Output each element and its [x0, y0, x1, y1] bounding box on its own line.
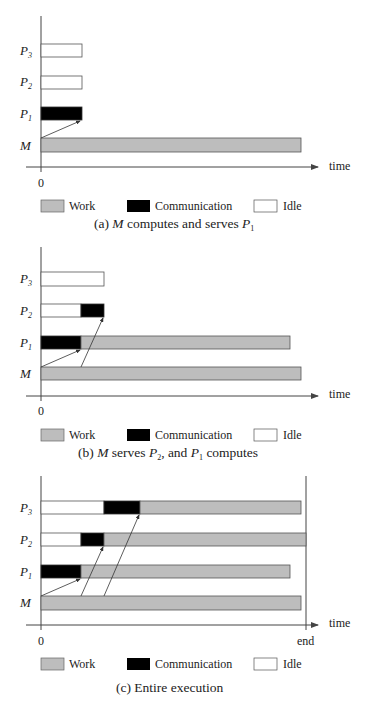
- caption-c: (c) Entire execution: [116, 680, 223, 695]
- legend-work-swatch: [41, 200, 64, 212]
- row-label-p3: P3: [19, 271, 32, 288]
- row-label-m: M: [19, 595, 32, 610]
- legend-communication-swatch: [127, 429, 150, 441]
- row-label-p2: P2: [19, 74, 32, 91]
- time-label: time: [329, 387, 350, 401]
- message-arrow-m-p1: [41, 121, 80, 138]
- legend-idle-swatch: [254, 429, 277, 441]
- legend-idle-label: Idle: [283, 428, 302, 442]
- bar-p2-idle: [41, 76, 82, 89]
- row-label-p2: P2: [19, 532, 32, 549]
- legend-idle-label: Idle: [283, 657, 302, 671]
- bar-p2-idle: [41, 533, 81, 546]
- panel-b: time 0 P3 P2 P1 M Work Communication Idl…: [19, 247, 350, 462]
- legend-work-swatch: [41, 429, 64, 441]
- caption-a: (a) M computes and serves P1: [94, 216, 254, 233]
- legend-communication-label: Communication: [155, 199, 232, 213]
- bar-p1-communication: [41, 107, 82, 120]
- legend-idle-swatch: [254, 200, 277, 212]
- legend-communication-label: Communication: [155, 428, 232, 442]
- bar-p1-work: [81, 336, 290, 349]
- row-label-m: M: [19, 366, 32, 381]
- bar-p3-communication: [104, 501, 140, 514]
- message-arrow-m-p1: [41, 579, 80, 596]
- legend-communication-label: Communication: [155, 657, 232, 671]
- time-label: time: [329, 616, 350, 630]
- bar-p3-idle: [41, 44, 82, 57]
- legend-c: Work Communication Idle: [41, 657, 302, 671]
- zero-label: 0: [38, 176, 44, 190]
- legend-communication-swatch: [127, 658, 150, 670]
- row-label-p3: P3: [19, 500, 32, 517]
- legend-work-label: Work: [69, 657, 95, 671]
- legend-work-label: Work: [69, 428, 95, 442]
- bar-m-work: [41, 596, 301, 610]
- row-label-p1: P1: [19, 564, 32, 581]
- panel-a: time 0 P3 P2 P1 M Work Communication Idl…: [19, 16, 350, 233]
- bar-p3-idle: [41, 501, 104, 514]
- bar-m-work: [41, 367, 301, 380]
- legend-communication-swatch: [127, 200, 150, 212]
- legend-b: Work Communication Idle: [41, 428, 302, 442]
- bar-p3-work: [140, 501, 301, 514]
- gantt-diagram: time 0 P3 P2 P1 M Work Communication Idl…: [0, 0, 367, 707]
- zero-label: 0: [38, 634, 44, 648]
- row-label-p3: P3: [19, 43, 32, 60]
- bar-p2-idle: [41, 304, 81, 317]
- message-arrow-m-p1: [41, 350, 80, 367]
- caption-b: (b) M serves P2, and P1 computes: [78, 445, 258, 462]
- bar-p1-communication: [41, 565, 81, 578]
- legend-work-label: Work: [69, 199, 95, 213]
- time-label: time: [329, 159, 350, 173]
- legend-idle-swatch: [254, 658, 277, 670]
- legend-idle-label: Idle: [283, 199, 302, 213]
- zero-label: 0: [38, 404, 44, 418]
- row-label-p2: P2: [19, 303, 32, 320]
- message-arrow-m-p3: [104, 515, 139, 596]
- panel-c: time 0 end P3 P2 P1 M Work Communication…: [19, 476, 350, 695]
- bar-m-work: [41, 138, 301, 152]
- bar-p3-idle: [41, 272, 104, 286]
- row-label-p1: P1: [19, 335, 32, 352]
- bar-p2-communication: [81, 304, 104, 317]
- end-label: end: [297, 634, 314, 648]
- legend-a: Work Communication Idle: [41, 199, 302, 213]
- row-label-p1: P1: [19, 106, 32, 123]
- legend-work-swatch: [41, 658, 64, 670]
- bar-p1-communication: [41, 336, 81, 349]
- bar-p2-work: [104, 533, 306, 546]
- bar-p2-communication: [81, 533, 104, 546]
- row-label-m: M: [19, 138, 32, 153]
